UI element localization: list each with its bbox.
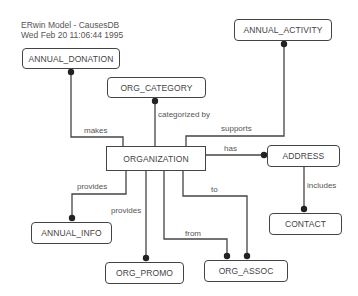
entity-name: ORG_ASSOC — [219, 266, 274, 276]
label-to: to — [211, 185, 218, 194]
label-provides-promo: provides — [111, 206, 141, 215]
cardinality-dot-icon — [69, 215, 75, 221]
entity-name: CONTACT — [285, 219, 326, 229]
entity-name: ANNUAL_INFO — [41, 228, 102, 238]
label-provides-info: provides — [77, 182, 107, 191]
label-supports: supports — [221, 124, 252, 133]
entity-name: ANNUAL_DONATION — [29, 54, 114, 64]
entity-organization[interactable]: ORGANIZATION — [106, 146, 206, 171]
entity-address[interactable]: ADDRESS — [267, 145, 340, 167]
entity-name: ORG_CATEGORY — [120, 83, 192, 93]
cardinality-dot-icon — [152, 98, 158, 104]
cardinality-dot-icon — [68, 69, 74, 75]
entity-contact[interactable]: CONTACT — [269, 213, 342, 235]
entity-annual-info[interactable]: ANNUAL_INFO — [31, 222, 112, 244]
cardinality-dot-icon — [143, 255, 149, 261]
entity-name: ANNUAL_ACTIVITY — [244, 25, 323, 35]
relationship-to-line[interactable] — [183, 170, 247, 256]
relationship-from-line[interactable] — [164, 170, 227, 256]
cardinality-dot-icon — [301, 206, 307, 212]
entity-name: ORG_PROMO — [116, 268, 173, 278]
label-includes: includes — [307, 181, 336, 190]
entity-name: ORGANIZATION — [123, 154, 188, 164]
label-from: from — [185, 229, 201, 238]
entity-name: ADDRESS — [283, 151, 325, 161]
entity-annual-activity[interactable]: ANNUAL_ACTIVITY — [234, 19, 332, 41]
entity-org-category[interactable]: ORG_CATEGORY — [107, 77, 206, 98]
label-makes: makes — [84, 126, 108, 135]
cardinality-dot-icon — [281, 41, 287, 47]
entity-org-assoc[interactable]: ORG_ASSOC — [204, 260, 288, 282]
cardinality-dot-icon — [244, 253, 250, 259]
cardinality-dot-icon — [224, 253, 230, 259]
label-categorized-by: categorized by — [158, 110, 210, 119]
entity-annual-donation[interactable]: ANNUAL_DONATION — [22, 48, 120, 69]
label-has: has — [224, 144, 237, 153]
entity-org-promo[interactable]: ORG_PROMO — [105, 262, 184, 284]
